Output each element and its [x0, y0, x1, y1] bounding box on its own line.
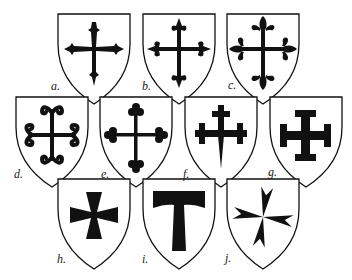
label-i: i.	[142, 253, 148, 265]
shield-f	[185, 97, 257, 187]
shield-c	[227, 14, 299, 104]
label-e: e.	[101, 168, 109, 180]
label-j: j.	[225, 252, 231, 264]
label-g: g.	[268, 166, 277, 178]
label-b: b.	[142, 80, 151, 92]
shield-d	[16, 97, 88, 187]
shield-j	[227, 179, 299, 269]
shield-b	[143, 14, 215, 104]
shield-g	[270, 97, 342, 187]
label-c: c.	[228, 79, 236, 91]
shield-a	[58, 14, 130, 104]
shields-figure	[0, 0, 352, 280]
shield-i	[143, 179, 215, 269]
label-d: d.	[14, 168, 23, 180]
label-a: a.	[51, 80, 60, 92]
shield-e	[100, 97, 172, 187]
label-f: f.	[183, 168, 189, 180]
label-h: h.	[57, 253, 66, 265]
shield-h	[58, 179, 130, 269]
